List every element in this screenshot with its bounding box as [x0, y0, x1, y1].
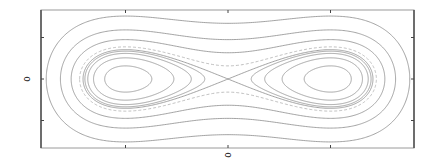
- phase-portrait-plot: 0 0: [0, 0, 437, 161]
- contour-line: [265, 53, 369, 104]
- contour-line: [282, 58, 362, 100]
- contour-line: [251, 51, 371, 107]
- contour-line: [105, 66, 152, 92]
- contour-line: [88, 53, 192, 104]
- y-axis-zero-label: 0: [22, 76, 32, 81]
- contour-line: [85, 51, 205, 107]
- contour-line: [304, 66, 351, 92]
- x-axis-zero-label: 0: [223, 152, 233, 157]
- contour-lines: [46, 16, 410, 142]
- contour-line: [83, 50, 373, 109]
- contour-line: [94, 58, 174, 100]
